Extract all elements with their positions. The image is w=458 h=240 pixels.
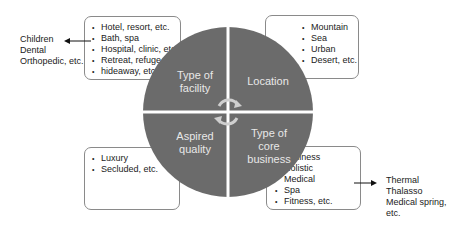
quadrant-label-core-business: Type ofcorebusiness [234,127,304,166]
quadrant-label-location: Location [233,75,303,88]
quadrant-label-facility: Type offacility [160,69,230,95]
spa-note: ThermalThalassoMedical spring,etc. [386,175,447,219]
arrow-right-icon [354,180,377,186]
hospital-note: ChildrenDentalOrthopedic, etc. [20,34,84,67]
quadrant-label-quality: Aspiredquality [160,130,230,156]
